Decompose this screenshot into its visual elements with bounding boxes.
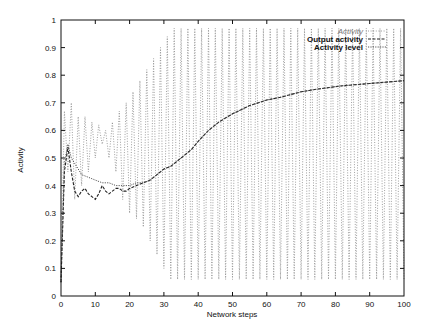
series-activity-level xyxy=(61,81,404,283)
x-tick-label: 40 xyxy=(194,300,203,309)
y-axis: 00.10.20.30.40.50.60.70.80.91 xyxy=(45,16,404,301)
x-axis: 0102030405060708090100 xyxy=(59,20,411,309)
y-tick-label: 0 xyxy=(52,292,57,301)
x-tick-label: 10 xyxy=(91,300,100,309)
x-tick-label: 60 xyxy=(262,300,271,309)
y-tick-label: 0.5 xyxy=(45,154,57,163)
y-tick-label: 0.3 xyxy=(45,209,57,218)
x-tick-label: 70 xyxy=(297,300,306,309)
x-axis-title: Network steps xyxy=(207,310,258,319)
plot-frame xyxy=(61,20,404,296)
y-tick-label: 0.6 xyxy=(45,126,57,135)
series-activity xyxy=(61,28,404,282)
x-tick-label: 100 xyxy=(397,300,411,309)
x-tick-label: 30 xyxy=(159,300,168,309)
y-tick-label: 0.4 xyxy=(45,182,57,191)
x-tick-label: 90 xyxy=(365,300,374,309)
y-tick-label: 1 xyxy=(52,16,57,25)
legend-label: Activity level xyxy=(314,43,363,52)
y-tick-label: 0.2 xyxy=(45,237,57,246)
y-tick-label: 0.7 xyxy=(45,99,57,108)
y-axis-title: Activity xyxy=(16,147,25,172)
x-tick-label: 0 xyxy=(59,300,64,309)
x-tick-label: 80 xyxy=(331,300,340,309)
series-output-activity xyxy=(61,81,404,283)
x-tick-label: 20 xyxy=(125,300,134,309)
activity-chart: 0102030405060708090100 00.10.20.30.40.50… xyxy=(0,0,426,329)
x-tick-label: 50 xyxy=(228,300,237,309)
legend: ActivityOutput activityActivity level xyxy=(307,27,386,52)
y-tick-label: 0.8 xyxy=(45,71,57,80)
plot-series xyxy=(61,28,404,282)
y-tick-label: 0.9 xyxy=(45,44,57,53)
y-tick-label: 0.1 xyxy=(45,264,57,273)
